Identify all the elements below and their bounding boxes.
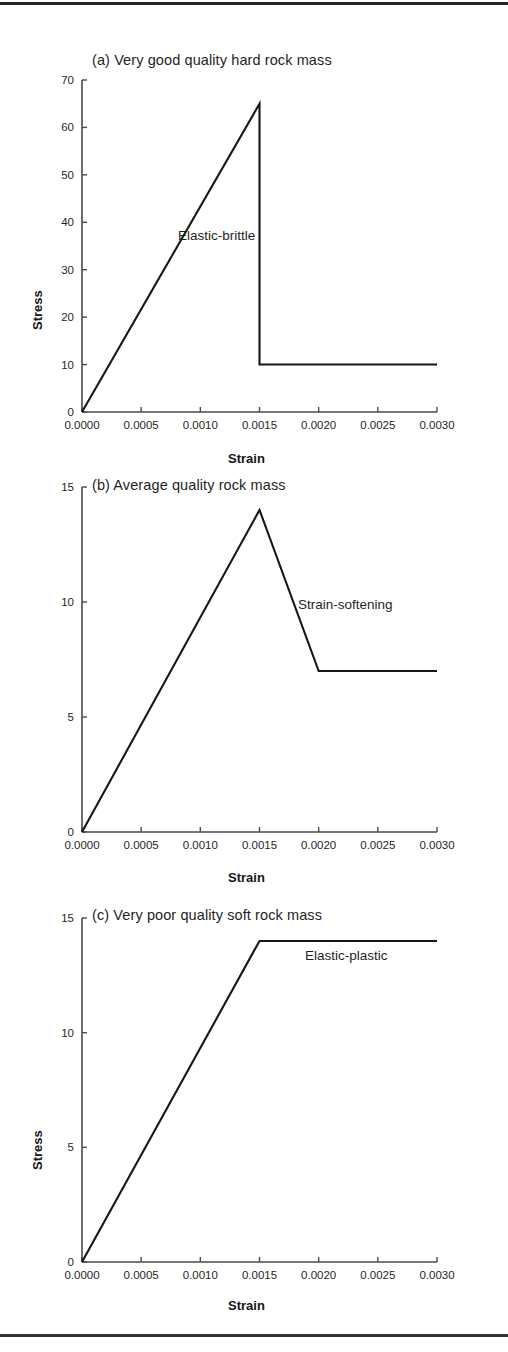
x-tick-label: 0.0010	[183, 419, 218, 431]
x-tick-label: 0.0025	[360, 839, 395, 851]
panel-c-annotation: Elastic-plastic	[305, 948, 388, 963]
y-tick-label: 10	[61, 1027, 74, 1039]
x-tick-label: 0.0025	[360, 1269, 395, 1281]
curve-elastic-brittle	[82, 104, 437, 412]
y-tick-label: 5	[68, 711, 74, 723]
y-tick-label: 0	[68, 1256, 74, 1268]
panel-a-title: (a) Very good quality hard rock mass	[92, 52, 332, 68]
y-tick-label: 5	[68, 1141, 74, 1153]
panel-a-x-axis-title: Strain	[228, 451, 265, 466]
y-tick-label: 70	[61, 74, 74, 86]
x-tick-label: 0.0005	[124, 419, 159, 431]
curve-strain-softening	[82, 510, 437, 832]
y-tick-label: 30	[61, 264, 74, 276]
panel-a-annotation: Elastic-brittle	[178, 228, 255, 243]
x-tick-label: 0.0020	[301, 839, 336, 851]
panel-c-title: (c) Very poor quality soft rock mass	[92, 907, 322, 923]
panel-c-x-axis-title: Strain	[228, 1298, 265, 1313]
x-tick-label: 0.0020	[301, 419, 336, 431]
y-tick-label: 10	[61, 596, 74, 608]
y-tick-label: 0	[68, 826, 74, 838]
panel-b: (b) Average quality rock mass 0.00000.00…	[0, 470, 508, 900]
y-tick-label: 60	[61, 121, 74, 133]
y-tick-label: 50	[61, 169, 74, 181]
y-tick-label: 15	[61, 912, 74, 924]
x-tick-label: 0.0015	[242, 419, 277, 431]
x-tick-label: 0.0015	[242, 1269, 277, 1281]
x-tick-label: 0.0000	[64, 419, 99, 431]
x-tick-label: 0.0020	[301, 1269, 336, 1281]
x-tick-label: 0.0000	[64, 1269, 99, 1281]
x-tick-label: 0.0010	[183, 839, 218, 851]
bottom-divider-rule	[0, 1334, 508, 1337]
x-tick-label: 0.0000	[64, 839, 99, 851]
y-tick-label: 20	[61, 311, 74, 323]
y-tick-label: 40	[61, 216, 74, 228]
x-tick-label: 0.0005	[124, 1269, 159, 1281]
figure-page: (a) Very good quality hard rock mass 0.0…	[0, 0, 508, 1352]
panel-a: (a) Very good quality hard rock mass 0.0…	[0, 40, 508, 480]
x-tick-label: 0.0015	[242, 839, 277, 851]
x-tick-label: 0.0030	[419, 419, 454, 431]
x-tick-label: 0.0005	[124, 839, 159, 851]
y-tick-label: 10	[61, 359, 74, 371]
panel-c: (c) Very poor quality soft rock mass 0.0…	[0, 900, 508, 1320]
x-tick-label: 0.0030	[419, 839, 454, 851]
panel-a-y-axis-title: Stress	[30, 290, 45, 330]
panel-b-annotation: Strain-softening	[298, 597, 393, 612]
panel-b-plot: 0.00000.00050.00100.00150.00200.00250.00…	[0, 470, 508, 865]
panel-b-x-axis-title: Strain	[228, 870, 265, 885]
x-tick-label: 0.0010	[183, 1269, 218, 1281]
y-tick-label: 0	[68, 406, 74, 418]
panel-c-plot: 0.00000.00050.00100.00150.00200.00250.00…	[0, 900, 508, 1290]
panel-b-title: (b) Average quality rock mass	[92, 477, 286, 493]
top-divider-rule	[0, 2, 508, 5]
x-tick-label: 0.0025	[360, 419, 395, 431]
y-tick-label: 15	[61, 481, 74, 493]
x-tick-label: 0.0030	[419, 1269, 454, 1281]
curve-elastic-plastic	[82, 941, 437, 1262]
